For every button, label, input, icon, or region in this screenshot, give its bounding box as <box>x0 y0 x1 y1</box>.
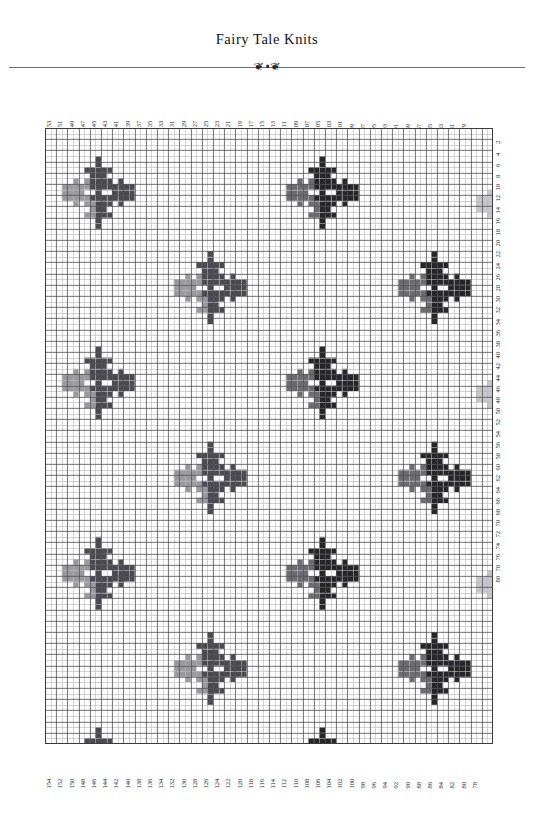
tick-bottom-col-92: 92 <box>394 782 401 789</box>
tick-bottom-col-136: 136 <box>147 779 154 789</box>
tick-right-row-28: 28 <box>495 285 502 292</box>
tick-right-row-24: 24 <box>495 263 502 270</box>
tick-right-row-74: 74 <box>495 543 502 550</box>
tick-bottom-col-120: 120 <box>237 779 244 789</box>
tick-bottom-col-134: 134 <box>159 779 166 789</box>
tick-bottom-col-112: 112 <box>282 779 289 789</box>
tick-right-row-48: 48 <box>495 397 502 404</box>
tick-right-row-18: 18 <box>495 229 502 236</box>
tick-bottom-col-98: 98 <box>360 782 367 789</box>
tick-right-row-32: 32 <box>495 307 502 314</box>
tick-bottom-col-118: 118 <box>248 779 255 789</box>
tick-bottom-col-144: 144 <box>103 779 110 789</box>
tick-right-row-64: 64 <box>495 487 502 494</box>
tick-right-row-50: 50 <box>495 408 502 415</box>
header-ornament: ❦•❦ <box>0 57 534 77</box>
knitting-chart <box>45 128 493 744</box>
tick-right-row-16: 16 <box>495 218 502 225</box>
chart-axis-top: 1531511491471451431411391371351331311291… <box>45 90 493 126</box>
tick-right-row-42: 42 <box>495 363 502 370</box>
tick-right-row-76: 76 <box>495 554 502 561</box>
tick-right-row-26: 26 <box>495 274 502 281</box>
tick-right-row-10: 10 <box>495 184 502 191</box>
tick-right-row-2: 2 <box>495 141 502 144</box>
tick-right-row-54: 54 <box>495 431 502 438</box>
chart-grid-canvas <box>45 128 493 744</box>
tick-right-row-78: 78 <box>495 565 502 572</box>
chart-axis-bottom: 1541521501481461441421401381361341321301… <box>45 748 493 784</box>
tick-bottom-col-140: 140 <box>125 779 132 789</box>
ornament-center-dot-icon: • <box>264 57 269 77</box>
ornament-left-leaf-icon: ❦ <box>254 59 264 75</box>
tick-right-row-66: 66 <box>495 498 502 505</box>
tick-bottom-col-96: 96 <box>371 782 378 789</box>
page-title: Fairy Tale Knits <box>0 31 534 48</box>
tick-right-row-12: 12 <box>495 195 502 202</box>
tick-bottom-col-82: 82 <box>450 782 457 789</box>
tick-right-row-4: 4 <box>495 152 502 155</box>
tick-right-row-46: 46 <box>495 386 502 393</box>
tick-bottom-col-84: 84 <box>439 782 446 789</box>
tick-bottom-col-124: 124 <box>215 779 222 789</box>
tick-right-row-20: 20 <box>495 240 502 247</box>
tick-right-row-44: 44 <box>495 375 502 382</box>
tick-bottom-col-128: 128 <box>192 779 199 789</box>
tick-bottom-col-132: 132 <box>170 779 177 789</box>
tick-bottom-col-152: 152 <box>58 779 65 789</box>
tick-right-row-8: 8 <box>495 175 502 178</box>
tick-bottom-col-80: 80 <box>461 782 468 789</box>
tick-bottom-col-154: 154 <box>47 779 54 789</box>
tick-right-row-36: 36 <box>495 330 502 337</box>
tick-bottom-col-106: 106 <box>315 779 322 789</box>
tick-right-row-14: 14 <box>495 207 502 214</box>
tick-bottom-col-148: 148 <box>80 779 87 789</box>
tick-bottom-col-102: 102 <box>338 779 345 789</box>
tick-bottom-col-130: 130 <box>181 779 188 789</box>
chart-page: Fairy Tale Knits ❦•❦ 1531511491471451431… <box>0 0 534 822</box>
tick-right-row-34: 34 <box>495 319 502 326</box>
tick-right-row-72: 72 <box>495 531 502 538</box>
tick-bottom-col-126: 126 <box>203 779 210 789</box>
tick-bottom-col-150: 150 <box>69 779 76 789</box>
tick-bottom-col-90: 90 <box>405 782 412 789</box>
page-header: Fairy Tale Knits ❦•❦ <box>0 0 534 80</box>
tick-right-row-60: 60 <box>495 464 502 471</box>
chart-axis-right: 2468101214161820222426283032343638404244… <box>494 128 530 744</box>
tick-right-row-30: 30 <box>495 296 502 303</box>
tick-bottom-col-138: 138 <box>136 779 143 789</box>
tick-bottom-col-122: 122 <box>226 779 233 789</box>
tick-right-row-22: 22 <box>495 251 502 258</box>
tick-right-row-38: 38 <box>495 341 502 348</box>
tick-bottom-col-108: 108 <box>304 779 311 789</box>
ornament-right-leaf-icon: ❦ <box>270 59 280 75</box>
tick-bottom-col-116: 116 <box>259 779 266 789</box>
tick-bottom-col-86: 86 <box>427 782 434 789</box>
tick-right-row-80: 80 <box>495 576 502 583</box>
tick-right-row-52: 52 <box>495 419 502 426</box>
tick-bottom-col-114: 114 <box>271 779 278 789</box>
tick-right-row-40: 40 <box>495 352 502 359</box>
tick-bottom-col-94: 94 <box>383 782 390 789</box>
tick-bottom-col-78: 78 <box>472 782 479 789</box>
tick-right-row-68: 68 <box>495 509 502 516</box>
tick-right-row-6: 6 <box>495 163 502 166</box>
tick-bottom-col-146: 146 <box>91 779 98 789</box>
tick-right-row-58: 58 <box>495 453 502 460</box>
tick-bottom-col-110: 110 <box>293 779 300 789</box>
tick-right-row-56: 56 <box>495 442 502 449</box>
tick-bottom-col-88: 88 <box>416 782 423 789</box>
tick-right-row-70: 70 <box>495 520 502 527</box>
tick-bottom-col-100: 100 <box>349 779 356 789</box>
tick-bottom-col-142: 142 <box>114 779 121 789</box>
tick-right-row-62: 62 <box>495 475 502 482</box>
tick-bottom-col-104: 104 <box>327 779 334 789</box>
